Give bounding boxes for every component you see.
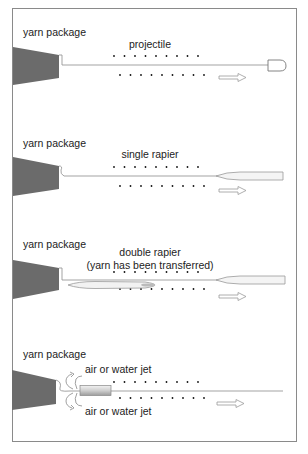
weft-yarn-line xyxy=(59,166,220,176)
warp-dots-top xyxy=(113,55,199,57)
double-rapier-sublabel: (yarn has been transferred) xyxy=(86,260,213,271)
yarn-package-icon xyxy=(13,47,59,85)
warp-dots-top xyxy=(113,381,199,383)
projectile-label: projectile xyxy=(129,39,171,50)
direction-arrow-icon xyxy=(219,74,246,82)
projectile-icon xyxy=(268,60,286,71)
warp-dots-bottom xyxy=(119,397,205,399)
yarn-package-icon xyxy=(12,370,56,410)
warp-dots-top xyxy=(113,166,199,168)
panel-single-rapier xyxy=(13,157,283,196)
direction-arrow-icon xyxy=(219,293,246,301)
jet-stream-top-icon xyxy=(66,372,74,389)
yarn-package-label: yarn package xyxy=(23,138,86,149)
jet-nozzle-icon xyxy=(80,386,111,396)
diagram-canvas xyxy=(0,0,308,454)
jet-stream-bottom-icon xyxy=(66,393,74,410)
yarn-package-icon xyxy=(13,260,59,299)
direction-arrow-icon xyxy=(219,187,246,195)
warp-dots-bottom xyxy=(119,74,205,76)
yarn-package-label: yarn package xyxy=(23,349,86,360)
yarn-package-label: yarn package xyxy=(23,27,86,38)
yarn-package-icon xyxy=(13,157,59,196)
warp-dots-top xyxy=(113,271,199,273)
weft-yarn-line xyxy=(59,55,268,65)
yarn-package-label: yarn package xyxy=(23,239,86,250)
jet-label-top: air or water jet xyxy=(85,364,152,375)
jet-label-bottom: air or water jet xyxy=(85,406,152,417)
direction-arrow-icon xyxy=(217,400,244,408)
right-rapier-icon xyxy=(216,276,285,284)
double-rapier-label: double rapier xyxy=(119,247,180,258)
single-rapier-label: single rapier xyxy=(121,149,178,160)
panel-projectile xyxy=(13,47,286,85)
warp-dots-bottom xyxy=(119,185,205,187)
rapier-icon xyxy=(216,172,283,180)
panel-jet xyxy=(12,370,283,410)
